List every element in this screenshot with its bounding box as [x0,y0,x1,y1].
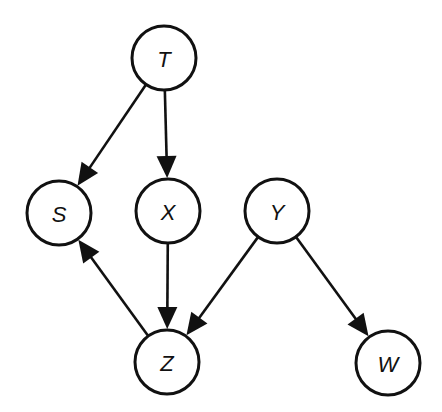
node-label: Z [159,351,175,376]
arrowhead-icon [157,307,177,329]
node-label: X [160,200,177,225]
node-z: Z [135,330,199,394]
edge-x-to-z [157,243,177,329]
nodes-layer: TSXYZW [27,26,420,395]
arrowhead-icon [78,240,99,264]
node-label: T [157,47,172,72]
edge-line [198,237,258,319]
edge-y-to-z [186,237,258,335]
causal-graph: TSXYZW [0,0,442,412]
arrowhead-icon [157,156,177,178]
edge-line [296,237,357,320]
edge-z-to-s [78,240,148,336]
edge-t-to-x [157,90,177,178]
node-label: Y [270,200,286,225]
node-w: W [356,331,420,395]
arrowhead-icon [347,313,368,337]
edges-layer [78,84,369,336]
edge-y-to-w [296,237,369,337]
node-label: S [52,202,67,227]
arrowhead-icon [78,162,99,186]
node-label: W [378,352,401,377]
edge-line [89,84,146,169]
node-t: T [132,26,196,90]
edge-line [90,256,148,336]
edge-line [165,90,167,158]
edge-t-to-s [78,84,147,185]
arrowhead-icon [186,312,207,336]
node-x: X [136,179,200,243]
node-s: S [27,181,91,245]
node-y: Y [245,179,309,243]
